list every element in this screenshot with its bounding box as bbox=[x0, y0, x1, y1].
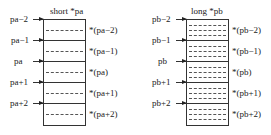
value-label: *(pb−2) bbox=[232, 25, 261, 35]
arrow-icon bbox=[176, 61, 186, 62]
arrow-icon bbox=[176, 40, 186, 41]
byte-divider bbox=[189, 35, 226, 36]
value-label: *(pb−1) bbox=[232, 46, 261, 56]
byte-divider bbox=[189, 30, 226, 31]
pointer-label: pa−2 bbox=[10, 14, 28, 24]
arrow-icon bbox=[176, 103, 186, 104]
arrow-icon bbox=[33, 82, 43, 83]
pointer-label: pa−1 bbox=[11, 35, 29, 45]
arrow-icon bbox=[33, 103, 43, 104]
value-label: *(pb+2) bbox=[232, 109, 261, 119]
value-label: *(pa) bbox=[89, 67, 108, 77]
pointer-label: pa+1 bbox=[10, 77, 28, 87]
byte-divider bbox=[46, 51, 83, 52]
value-label: *(pa−1) bbox=[89, 46, 118, 56]
value-label: *(pb) bbox=[232, 67, 252, 77]
pointer-label: pb+1 bbox=[152, 77, 171, 87]
element-divider bbox=[44, 82, 85, 83]
byte-divider bbox=[189, 109, 226, 110]
arrow-icon bbox=[176, 19, 186, 20]
byte-divider bbox=[189, 88, 226, 89]
long-memory-box bbox=[186, 19, 229, 126]
short-memory-box bbox=[43, 19, 86, 126]
value-label: *(pb+1) bbox=[232, 88, 261, 98]
element-divider bbox=[44, 40, 85, 41]
byte-divider bbox=[189, 77, 226, 78]
element-divider bbox=[187, 82, 228, 83]
byte-divider bbox=[189, 98, 226, 99]
element-divider bbox=[44, 61, 85, 62]
arrow-icon bbox=[33, 61, 43, 62]
byte-divider bbox=[46, 114, 83, 115]
pointer-label: pa bbox=[14, 56, 23, 66]
byte-divider bbox=[189, 25, 226, 26]
pointer-label: pb bbox=[158, 56, 167, 66]
value-label: *(pa−2) bbox=[89, 25, 118, 35]
short-title: short *pa bbox=[50, 6, 83, 16]
byte-divider bbox=[189, 67, 226, 68]
arrow-icon bbox=[176, 82, 186, 83]
byte-divider bbox=[189, 119, 226, 120]
value-label: *(pa+1) bbox=[89, 88, 118, 98]
pointer-label: pb−1 bbox=[152, 35, 171, 45]
byte-divider bbox=[46, 93, 83, 94]
byte-divider bbox=[189, 72, 226, 73]
value-label: *(pa+2) bbox=[89, 109, 118, 119]
byte-divider bbox=[46, 30, 83, 31]
byte-divider bbox=[189, 114, 226, 115]
pointer-label: pb−2 bbox=[152, 14, 171, 24]
element-divider bbox=[44, 103, 85, 104]
long-title: long *pb bbox=[191, 6, 223, 16]
pointer-label: pb+2 bbox=[152, 98, 171, 108]
byte-divider bbox=[189, 51, 226, 52]
byte-divider bbox=[46, 72, 83, 73]
arrow-icon bbox=[33, 40, 43, 41]
element-divider bbox=[187, 103, 228, 104]
pointer-label: pa+2 bbox=[10, 98, 28, 108]
byte-divider bbox=[189, 46, 226, 47]
byte-divider bbox=[189, 93, 226, 94]
arrow-icon bbox=[33, 19, 43, 20]
byte-divider bbox=[189, 56, 226, 57]
element-divider bbox=[187, 40, 228, 41]
element-divider bbox=[187, 61, 228, 62]
